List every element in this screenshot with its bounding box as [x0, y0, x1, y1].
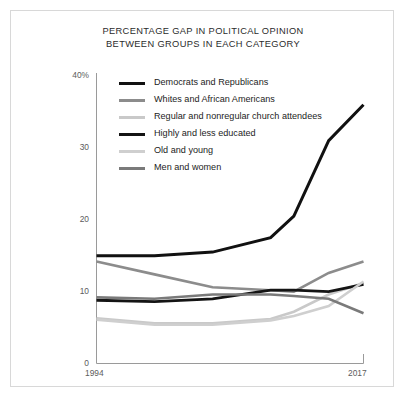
- plot-area: [11, 11, 395, 388]
- y-tick-label: 40%: [55, 70, 89, 80]
- legend-item-label: Whites and African Americans: [154, 94, 275, 106]
- legend-item: Democrats and Republicans: [119, 77, 334, 90]
- legend-item: Men and women: [119, 162, 334, 175]
- legend-item-label: Regular and nonregular church attendees: [154, 111, 322, 123]
- legend-item: Regular and nonregular church attendees: [119, 111, 334, 124]
- legend-swatch-icon: [119, 116, 145, 119]
- legend-swatch-icon: [119, 167, 145, 170]
- legend-item: Highly and less educated: [119, 128, 334, 141]
- y-tick-label: 30: [55, 142, 89, 152]
- y-tick-label: 10: [55, 286, 89, 296]
- x-tick-label: 2017: [348, 368, 367, 378]
- y-tick-label: 0: [55, 358, 89, 368]
- legend-swatch-icon: [119, 99, 145, 102]
- legend-item: Old and young: [119, 145, 334, 158]
- x-tick-label: 1994: [85, 368, 104, 378]
- chart-figure: PERCENTAGE GAP IN POLITICAL OPINION BETW…: [10, 10, 394, 387]
- legend-swatch-icon: [119, 150, 145, 153]
- legend-item-label: Democrats and Republicans: [154, 77, 268, 89]
- legend-item-label: Highly and less educated: [154, 128, 256, 140]
- legend-item: Whites and African Americans: [119, 94, 334, 107]
- chart-legend: Democrats and Republicans Whites and Afr…: [119, 77, 334, 179]
- legend-item-label: Men and women: [154, 162, 221, 174]
- legend-item-label: Old and young: [154, 145, 213, 157]
- series-line: [97, 261, 364, 291]
- legend-swatch-icon: [119, 133, 145, 136]
- legend-swatch-icon: [119, 82, 145, 85]
- y-tick-label: 20: [55, 214, 89, 224]
